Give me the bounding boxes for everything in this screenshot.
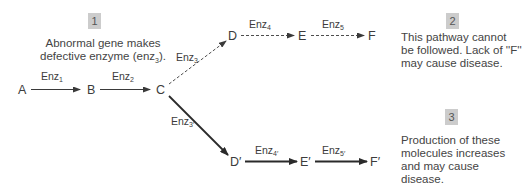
node-c: C [156, 83, 165, 97]
label-enz3: Enz3 [176, 51, 198, 64]
node-f: F [368, 29, 376, 43]
node-d: D [228, 29, 237, 43]
label-enz2: Enz2 [112, 70, 134, 83]
label-enz1: Enz1 [41, 70, 63, 83]
label-enz4-prime: Enz4′ [255, 144, 279, 157]
label-enz3-prime: Enz3′ [171, 115, 195, 128]
node-f-prime: F′ [370, 155, 381, 169]
node-e-prime: E′ [300, 155, 311, 169]
node-b: B [87, 83, 95, 97]
label-enz5-prime: Enz5′ [322, 144, 346, 157]
node-a: A [18, 83, 27, 97]
node-e: E [298, 29, 306, 43]
label-enz5: Enz5 [322, 18, 344, 31]
node-d-prime: D′ [230, 155, 242, 169]
label-enz4: Enz4 [249, 18, 271, 31]
pathway-diagram: A Enz1 B Enz2 C Enz3 D Enz4 E Enz5 F Enz… [0, 0, 528, 191]
